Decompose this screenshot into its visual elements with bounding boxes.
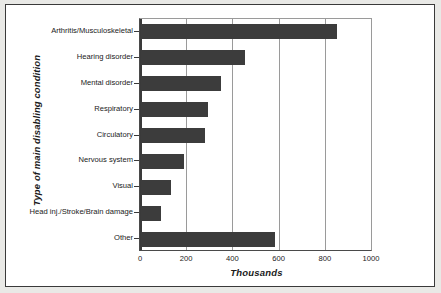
plot-frame (139, 18, 372, 251)
x-tick-label: 1000 (363, 254, 380, 263)
gridline-1000 (371, 19, 372, 250)
category-label: Head inj./Stroke/Brain damage (30, 207, 133, 216)
bars-layer (140, 19, 371, 250)
x-tick-label: 200 (180, 254, 193, 263)
x-tick-label: 400 (226, 254, 239, 263)
category-label: Visual (112, 181, 133, 190)
chart-outer-frame: Type of main disabling condition Arthrit… (5, 4, 435, 287)
category-label: Nervous system (79, 155, 133, 164)
x-tick-label: 800 (318, 254, 331, 263)
bar (141, 102, 208, 117)
x-axis-tick-labels: 02004006008001000 (139, 254, 379, 268)
category-label: Other (114, 233, 133, 242)
y-axis-category-labels: Arthritis/MusculoskeletalHearing disorde… (6, 18, 139, 251)
x-axis-title: Thousands (139, 267, 374, 278)
category-label: Mental disorder (81, 78, 133, 87)
bar (141, 24, 337, 39)
category-label: Respiratory (94, 104, 133, 113)
x-tick-label: 600 (272, 254, 285, 263)
bar (141, 76, 221, 91)
bar (141, 232, 275, 247)
category-label: Arthritis/Musculoskeletal (51, 26, 133, 35)
x-tick-label: 0 (138, 254, 142, 263)
screenshot-canvas: Type of main disabling condition Arthrit… (0, 0, 441, 293)
bar (141, 50, 245, 65)
bar (141, 180, 171, 195)
category-label: Circulatory (97, 130, 133, 139)
category-label: Hearing disorder (77, 52, 133, 61)
bar (141, 206, 161, 221)
bar-chart: Type of main disabling condition Arthrit… (6, 5, 436, 288)
bar (141, 154, 184, 169)
bar (141, 128, 205, 143)
